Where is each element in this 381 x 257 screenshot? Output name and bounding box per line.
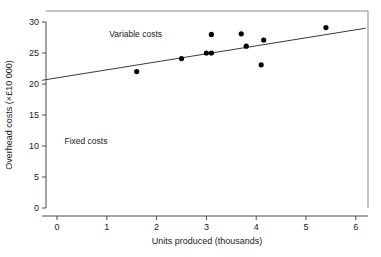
x-tick-label: 5 [303, 222, 308, 232]
x-axis-title: Units produced (thousands) [152, 236, 263, 246]
annotation-fixed-costs: Fixed costs [64, 136, 107, 146]
plot-frame [46, 11, 368, 208]
data-point [209, 32, 214, 37]
data-point [204, 50, 209, 55]
x-axis: 0123456 Units produced (thousands) [42, 216, 368, 246]
data-point [323, 25, 328, 30]
x-tick-label: 6 [353, 222, 358, 232]
y-tick-label: 0 [34, 203, 39, 213]
y-axis-ticks: 051015202530 [29, 17, 46, 213]
data-point [259, 62, 264, 67]
y-tick-label: 10 [29, 141, 39, 151]
x-tick-label: 2 [154, 222, 159, 232]
trend-line [42, 28, 366, 80]
chart-figure: 051015202530 Overhead costs (×£10 000) 0… [0, 0, 381, 257]
y-tick-label: 20 [29, 79, 39, 89]
y-axis-title: Overhead costs (×£10 000) [4, 60, 14, 169]
x-tick-label: 1 [104, 222, 109, 232]
total-cost-trend-line [42, 28, 366, 80]
plot-frame-border [46, 11, 368, 208]
y-tick-label: 15 [29, 110, 39, 120]
y-tick-label: 5 [34, 172, 39, 182]
annotation-variable-costs: Variable costs [109, 29, 162, 39]
data-point [134, 69, 139, 74]
x-tick-label: 4 [254, 222, 259, 232]
x-axis-ticks: 0123456 [54, 216, 358, 232]
chart-annotations: Variable costsFixed costs [64, 29, 162, 146]
x-tick-label: 0 [54, 222, 59, 232]
y-axis: 051015202530 Overhead costs (×£10 000) [4, 17, 46, 213]
x-tick-label: 3 [204, 222, 209, 232]
data-point [239, 31, 244, 36]
data-point [244, 44, 249, 49]
data-point [261, 37, 266, 42]
data-point [179, 56, 184, 61]
scatter-plot: 051015202530 Overhead costs (×£10 000) 0… [0, 0, 381, 257]
y-tick-label: 30 [29, 17, 39, 27]
data-point [209, 50, 214, 55]
y-tick-label: 25 [29, 48, 39, 58]
